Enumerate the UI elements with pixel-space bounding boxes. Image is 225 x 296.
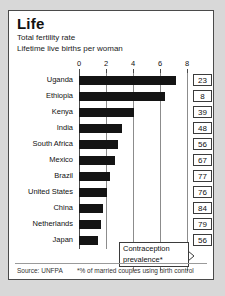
category-label-united-states: United States <box>28 187 73 196</box>
bar-row <box>79 137 187 153</box>
category-label-india: India <box>57 123 73 132</box>
category-label-south-africa: South Africa <box>33 139 73 148</box>
contraception-value-mexico: 67 <box>193 154 212 166</box>
contraception-value-south-africa: 56 <box>193 138 212 150</box>
category-label-china: China <box>53 203 73 212</box>
contraception-value-india: 48 <box>193 122 212 134</box>
value-box-row: 39 <box>193 105 215 121</box>
bar-chart-plot: 02468 <box>79 59 187 264</box>
axis-tick-label: 4 <box>131 59 135 68</box>
bar-china <box>79 204 103 213</box>
chart-subtitle-line-2: Lifetime live births per woman <box>17 44 123 53</box>
value-box-row: 23 <box>193 73 215 89</box>
page-title: Life <box>17 15 44 32</box>
value-box-row: 84 <box>193 201 215 217</box>
bar-brazil <box>79 172 110 181</box>
bar-ethiopia <box>79 92 165 101</box>
bar-row <box>79 169 187 185</box>
category-label-ethiopia: Ethiopia <box>46 91 73 100</box>
category-row: Mexico <box>9 153 77 169</box>
value-box-row: 67 <box>193 153 215 169</box>
bar-mexico <box>79 156 115 165</box>
contraception-value-japan: 56 <box>193 234 212 246</box>
value-box-row: 8 <box>193 89 215 105</box>
category-label-brazil: Brazil <box>54 171 73 180</box>
contraception-value-netherlands: 79 <box>193 218 212 230</box>
contraception-value-uganda: 23 <box>193 74 212 86</box>
axis-tick-label: 6 <box>158 59 162 68</box>
category-label-kenya: Kenya <box>52 107 73 116</box>
value-box-row: 77 <box>193 169 215 185</box>
value-box-row: 56 <box>193 233 215 249</box>
category-row: Uganda <box>9 73 77 89</box>
category-axis-labels: UgandaEthiopiaKenyaIndiaSouth AfricaMexi… <box>9 73 77 249</box>
contraception-value-brazil: 77 <box>193 170 212 182</box>
bar-india <box>79 124 122 133</box>
category-label-uganda: Uganda <box>47 75 73 84</box>
category-row: Japan <box>9 233 77 249</box>
bar-kenya <box>79 108 134 117</box>
bar-row <box>79 217 187 233</box>
bar-row <box>79 73 187 89</box>
chart-subtitle-line-1: Total fertility rate <box>17 33 75 42</box>
category-row: South Africa <box>9 137 77 153</box>
axis-tick-label: 8 <box>185 59 189 68</box>
footer-divider <box>15 263 207 264</box>
source-label: Source: UNFPA <box>17 267 63 274</box>
category-row: Kenya <box>9 105 77 121</box>
category-row: Brazil <box>9 169 77 185</box>
bar-united-states <box>79 188 107 197</box>
callout-pointer-icon <box>188 251 195 261</box>
bar-uganda <box>79 76 176 85</box>
chart-card: Life Total fertility rate Lifetime live … <box>8 10 214 280</box>
category-row: India <box>9 121 77 137</box>
value-box-row: 79 <box>193 217 215 233</box>
axis-tick-label: 2 <box>104 59 108 68</box>
bar-row <box>79 121 187 137</box>
bar-series <box>79 73 187 249</box>
value-box-row: 76 <box>193 185 215 201</box>
contraception-value-kenya: 39 <box>193 106 212 118</box>
contraception-value-china: 84 <box>193 202 212 214</box>
contraception-value-united-states: 76 <box>193 186 212 198</box>
bar-row <box>79 201 187 217</box>
bar-row <box>79 153 187 169</box>
bar-netherlands <box>79 220 101 229</box>
contraception-value-boxes: 238394856677776847956 <box>193 73 215 249</box>
bar-row <box>79 185 187 201</box>
bar-row <box>79 89 187 105</box>
footnote-label: *% of married couples using birth contro… <box>77 267 194 274</box>
category-label-japan: Japan <box>53 235 73 244</box>
callout-label-line-1: Contraception <box>123 244 170 253</box>
value-box-row: 56 <box>193 137 215 153</box>
bar-japan <box>79 236 98 245</box>
axis-tick-label: 0 <box>77 59 81 68</box>
category-row: Ethiopia <box>9 89 77 105</box>
value-box-row: 48 <box>193 121 215 137</box>
category-label-netherlands: Netherlands <box>33 219 73 228</box>
bar-row <box>79 105 187 121</box>
contraception-value-ethiopia: 8 <box>193 90 212 102</box>
category-row: China <box>9 201 77 217</box>
category-row: Netherlands <box>9 217 77 233</box>
category-label-mexico: Mexico <box>49 155 73 164</box>
category-row: United States <box>9 185 77 201</box>
bar-south-africa <box>79 140 118 149</box>
